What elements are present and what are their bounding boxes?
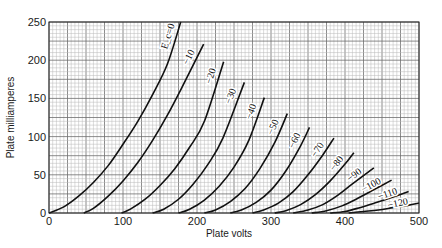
y-axis-ticks: 050100150200250: [28, 16, 46, 219]
curve-label-80: −80: [327, 154, 345, 173]
curve-label-70: −70: [308, 140, 326, 159]
x-tick-label: 200: [188, 215, 206, 227]
y-tick-label: 200: [28, 54, 46, 66]
x-tick-label: 100: [114, 215, 132, 227]
x-axis-ticks: 0100200300400500: [46, 215, 428, 227]
x-tick-label: 300: [262, 215, 280, 227]
x-tick-label: 0: [46, 215, 52, 227]
y-tick-label: 0: [40, 207, 46, 219]
plate-characteristics-chart: E_c=0−10−20−30−40−50−60−70−80−90−100−110…: [0, 0, 442, 248]
y-tick-label: 50: [34, 169, 46, 181]
y-tick-label: 250: [28, 16, 46, 28]
y-axis-label: Plate milliamperes: [5, 77, 16, 159]
y-tick-label: 100: [28, 131, 46, 143]
x-tick-label: 400: [336, 215, 354, 227]
curve-labels: E_c=0−10−20−30−40−50−60−70−80−90−100−110…: [158, 22, 408, 210]
x-tick-label: 500: [410, 215, 428, 227]
curve-label-90: −90: [344, 166, 363, 184]
y-tick-label: 150: [28, 92, 46, 104]
x-axis-label: Plate volts: [206, 228, 252, 239]
curve-label-30: −30: [222, 87, 238, 106]
